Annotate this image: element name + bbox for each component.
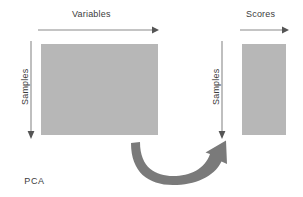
pca-label: PCA	[24, 176, 44, 186]
diagram-canvas: Variables Scores Samples Samples	[0, 0, 303, 197]
variables-arrow-icon	[38, 27, 159, 34]
arrow-layer	[0, 0, 303, 197]
pca-label-wrapper: PCA	[0, 176, 303, 186]
scores-arrow-icon	[240, 27, 289, 34]
samples-arrow-icon-right	[219, 41, 226, 139]
samples-arrow-icon-left	[28, 41, 35, 139]
